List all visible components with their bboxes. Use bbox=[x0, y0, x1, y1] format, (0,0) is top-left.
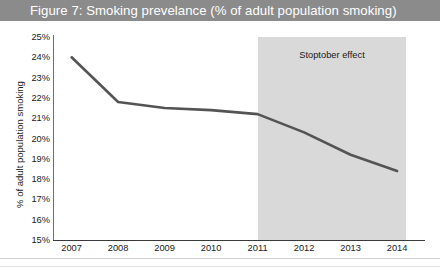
chart-plot-area: Stoptober effect % of adult population s… bbox=[0, 21, 440, 267]
x-axis-tick-label: 2010 bbox=[201, 243, 222, 253]
data-series-layer bbox=[0, 21, 440, 267]
x-axis-tick-label: 2012 bbox=[294, 243, 315, 253]
x-axis-tick-label: 2009 bbox=[154, 243, 175, 253]
x-axis-tick-label: 2014 bbox=[387, 243, 408, 253]
figure-bottom-divider bbox=[0, 258, 440, 259]
x-axis-tick-label: 2013 bbox=[340, 243, 361, 253]
figure-title-bar: Figure 7: Smoking prevelance (% of adult… bbox=[0, 0, 440, 21]
smoking-prevalence-line bbox=[72, 57, 398, 171]
x-axis-tick-label: 2011 bbox=[248, 243, 268, 253]
x-axis-tick-label: 2007 bbox=[61, 243, 82, 253]
figure-title: Figure 7: Smoking prevelance (% of adult… bbox=[30, 1, 397, 20]
x-axis-tick-label: 2008 bbox=[108, 243, 129, 253]
figure-container: Figure 7: Smoking prevelance (% of adult… bbox=[0, 0, 440, 267]
